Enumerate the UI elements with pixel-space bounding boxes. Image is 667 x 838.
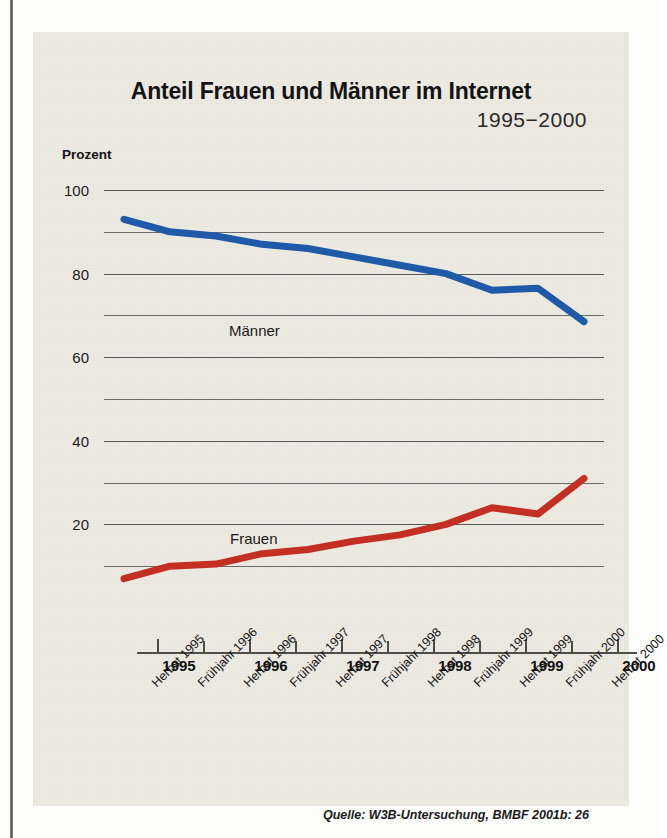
- y-tick-label-60: 60: [49, 349, 89, 366]
- series-line-männer: [124, 219, 584, 321]
- y-tick-label-80: 80: [49, 265, 89, 282]
- page-title: Anteil Frauen und Männer im Internet: [33, 78, 629, 105]
- x-tick-0: [157, 639, 159, 652]
- figure-card: Anteil Frauen und Männer im Internet 199…: [33, 32, 629, 806]
- y-axis-tick-labels: 20406080100: [47, 190, 89, 608]
- series-label-maenner: Männer: [229, 322, 280, 339]
- chart-subtitle: 1995−2000: [477, 108, 587, 132]
- series-line-frauen: [124, 478, 584, 578]
- y-tick-label-40: 40: [49, 432, 89, 449]
- y-tick-label-20: 20: [49, 516, 89, 533]
- y-tick-label-100: 100: [49, 182, 89, 199]
- page-gutter-edge: [10, 0, 13, 838]
- series-label-frauen: Frauen: [230, 530, 278, 547]
- plot-area: [104, 190, 604, 608]
- source-note: Quelle: W3B-Untersuchung, BMBF 2001b: 26: [323, 808, 589, 822]
- series-lines: [104, 190, 604, 608]
- y-axis-title: Prozent: [62, 147, 112, 162]
